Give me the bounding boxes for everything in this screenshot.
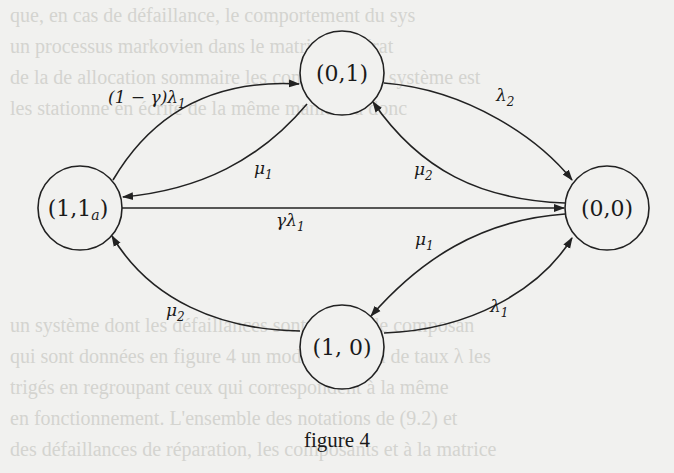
state-label: (1,1a) [48,196,109,223]
edge-label-mu1-bottom: μ1 [415,229,434,253]
state-node-0-0: (0,0) [565,166,649,250]
state-transition-diagram: (1 − γ)λ1 μ1 λ2 μ2 γλ1 μ1 λ1 μ2 (0,1) (1… [0,0,674,473]
edge-00-to-01 [373,102,565,203]
edge-label-mu1-top: μ1 [254,158,273,182]
figure-caption: figure 4 [0,428,674,453]
edge-label-1-gamma-lambda1: (1 − γ)λ1 [108,87,186,111]
edge-01-to-00 [384,83,572,180]
edge-10-to-11a [112,236,300,331]
edge-10-to-00 [384,238,572,333]
state-node-1-0: (1, 0) [300,305,384,389]
edge-label-gamma-lambda1: γλ1 [276,210,305,234]
state-label: (1, 0) [312,335,371,360]
edge-label-lambda2: λ2 [495,85,514,109]
state-node-1-1a: (1,1a) [38,166,122,250]
edge-01-to-11a [123,104,307,197]
edge-00-to-10 [371,214,565,316]
state-label: (0,0) [581,196,633,221]
state-node-0-1: (0,1) [300,31,384,115]
state-label: (0,1) [316,61,368,86]
edge-label-mu2-right: μ2 [414,159,433,183]
